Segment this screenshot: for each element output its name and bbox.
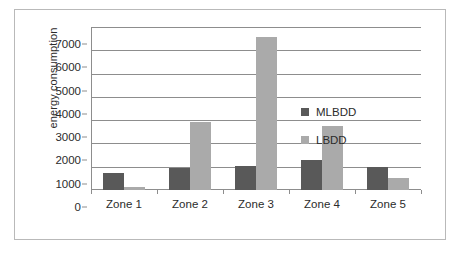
y-tick-label: 3000 bbox=[55, 131, 81, 143]
y-axis-tick-labels: 01000200030004000500060007000 bbox=[29, 27, 87, 190]
x-axis-category-labels: Zone 1Zone 2Zone 3Zone 4Zone 5 bbox=[91, 198, 421, 210]
x-category-label: Zone 1 bbox=[91, 198, 157, 210]
bar-lbdd-zone-2[interactable] bbox=[190, 122, 211, 190]
bar-mlbdd-zone-2[interactable] bbox=[169, 168, 190, 190]
x-tick-mark bbox=[421, 190, 422, 194]
x-tick-mark bbox=[223, 190, 224, 194]
chart-legend: MLBDDLBDD bbox=[301, 98, 399, 154]
y-tick-label: 2000 bbox=[55, 154, 81, 166]
bar-lbdd-zone-1[interactable] bbox=[124, 187, 145, 190]
y-tick-label: 4000 bbox=[55, 108, 81, 120]
x-category-label: Zone 2 bbox=[157, 198, 223, 210]
y-tick-label: 0 bbox=[75, 201, 81, 213]
x-category-label: Zone 3 bbox=[223, 198, 289, 210]
legend-item-mlbdd[interactable]: MLBDD bbox=[301, 98, 399, 126]
legend-item-lbdd[interactable]: LBDD bbox=[301, 126, 399, 154]
y-tick-mark bbox=[82, 137, 87, 138]
bar-group bbox=[91, 27, 157, 190]
y-tick-label: 5000 bbox=[55, 85, 81, 97]
bar-lbdd-zone-5[interactable] bbox=[388, 178, 409, 190]
x-tick-mark bbox=[355, 190, 356, 194]
legend-swatch-icon bbox=[301, 136, 309, 144]
y-tick-mark bbox=[82, 183, 87, 184]
x-category-label: Zone 5 bbox=[355, 198, 421, 210]
legend-swatch-icon bbox=[301, 108, 309, 116]
legend-label: MLBDD bbox=[316, 106, 356, 118]
figure-border: energy consumption 010002000300040005000… bbox=[14, 9, 446, 240]
x-tick-mark bbox=[91, 190, 92, 194]
bar-group bbox=[157, 27, 223, 190]
y-tick-mark bbox=[82, 160, 87, 161]
x-tick-mark bbox=[157, 190, 158, 194]
y-tick-mark bbox=[82, 113, 87, 114]
chart-figure: energy consumption 010002000300040005000… bbox=[0, 0, 462, 257]
bar-lbdd-zone-3[interactable] bbox=[256, 37, 277, 190]
x-category-label: Zone 4 bbox=[289, 198, 355, 210]
bar-mlbdd-zone-4[interactable] bbox=[301, 160, 322, 190]
bar-mlbdd-zone-3[interactable] bbox=[235, 166, 256, 190]
x-tick-mark bbox=[289, 190, 290, 194]
y-tick-mark bbox=[82, 67, 87, 68]
y-tick-mark bbox=[82, 207, 87, 208]
y-tick-mark bbox=[82, 44, 87, 45]
bar-mlbdd-zone-1[interactable] bbox=[103, 173, 124, 190]
y-tick-mark bbox=[82, 90, 87, 91]
y-tick-label: 1000 bbox=[55, 178, 81, 190]
bar-group bbox=[223, 27, 289, 190]
y-tick-label: 6000 bbox=[55, 61, 81, 73]
legend-label: LBDD bbox=[316, 134, 347, 146]
y-tick-label: 7000 bbox=[55, 38, 81, 50]
bar-mlbdd-zone-5[interactable] bbox=[367, 167, 388, 190]
